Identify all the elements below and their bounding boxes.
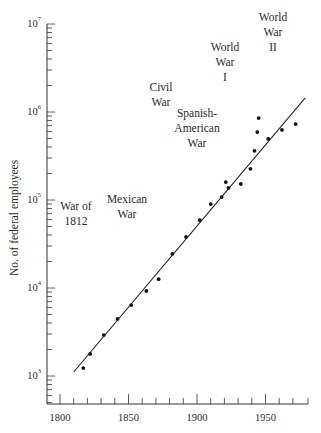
annotation-world-war-i: World War I — [211, 40, 239, 85]
y-tick-label: 105 — [11, 192, 41, 205]
y-axis-label: No. of federal employees — [8, 160, 20, 276]
annotation-line: War of — [60, 199, 91, 214]
y-tick-label: 104 — [11, 280, 41, 293]
annotation-line: II — [259, 40, 287, 55]
annotation-line: Mexican — [107, 192, 147, 207]
data-point — [255, 130, 259, 134]
x-tick-label: 1950 — [255, 412, 276, 423]
data-point — [81, 366, 85, 370]
annotation-line: War — [259, 25, 287, 40]
annotation-war-of-1812: War of 1812 — [60, 199, 91, 229]
data-point — [253, 149, 257, 153]
annotation-line: American — [174, 121, 219, 136]
x-tick-label: 1800 — [50, 412, 71, 423]
annotation-world-war-ii: World War II — [259, 10, 287, 55]
annotation-spanish-american-war: Spanish- American War — [174, 106, 219, 151]
x-tick-label: 1850 — [118, 412, 139, 423]
data-point — [209, 202, 213, 206]
annotation-line: World — [211, 40, 239, 55]
annotation-line: Civil — [149, 80, 172, 95]
annotation-line: I — [211, 70, 239, 85]
annotation-civil-war: Civil War — [149, 80, 172, 110]
y-tick-label: 107 — [11, 16, 41, 29]
data-point — [280, 128, 284, 132]
y-tick-label: 106 — [11, 104, 41, 117]
annotation-line: War — [107, 207, 147, 222]
y-tick-label: 103 — [11, 368, 41, 381]
annotation-line: World — [259, 10, 287, 25]
x-tick-label: 1900 — [187, 412, 208, 423]
annotation-line: War — [149, 95, 172, 110]
annotation-mexican-war: Mexican War — [107, 192, 147, 222]
data-point — [144, 289, 148, 293]
data-point — [249, 167, 253, 171]
annotation-line: 1812 — [60, 214, 91, 229]
annotation-line: Spanish- — [174, 106, 219, 121]
data-point — [157, 277, 161, 281]
data-point — [239, 182, 243, 186]
chart-canvas — [0, 0, 321, 433]
data-point — [294, 122, 298, 126]
annotation-line: War — [174, 136, 219, 151]
data-point — [257, 116, 261, 120]
data-point — [224, 180, 228, 184]
annotation-line: War — [211, 55, 239, 70]
